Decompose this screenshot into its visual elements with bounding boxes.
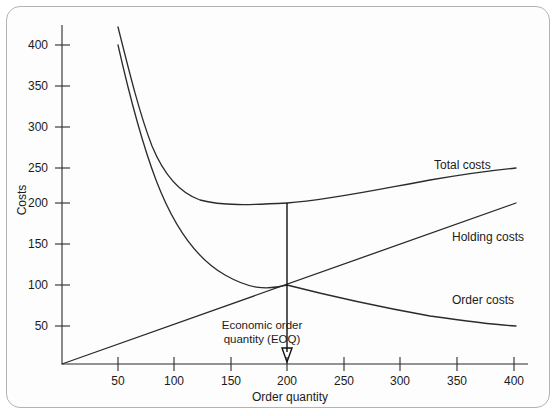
y-tick-label-300: 300 [28, 120, 48, 134]
x-tick-label-350: 350 [447, 374, 467, 388]
x-tick-label-50: 50 [111, 374, 125, 388]
total-costs-label: Total costs [434, 158, 491, 172]
y-tick-label-100: 100 [28, 278, 48, 292]
x-tick-label-250: 250 [334, 374, 354, 388]
y-axis-ticks: 400 350 300 250 200 150 100 50 [28, 38, 70, 333]
axes-group [62, 25, 528, 364]
x-axis-ticks: 50 100 150 200 250 300 350 400 [111, 357, 524, 388]
x-tick-label-200: 200 [277, 374, 297, 388]
x-tick-label-150: 150 [221, 374, 241, 388]
eoq-chart-figure: 400 350 300 250 200 150 100 50 50 100 15… [0, 0, 558, 416]
y-tick-label-200: 200 [28, 196, 48, 210]
y-tick-label-350: 350 [28, 79, 48, 93]
x-axis-title: Order quantity [252, 390, 328, 404]
order-costs-label: Order costs [452, 293, 514, 307]
x-tick-label-100: 100 [164, 374, 184, 388]
eoq-annotation-line-2: quantity (EOQ) [224, 333, 301, 345]
y-tick-label-150: 150 [28, 237, 48, 251]
x-tick-label-400: 400 [504, 374, 524, 388]
holding-costs-label: Holding costs [452, 230, 524, 244]
y-tick-label-50: 50 [35, 319, 49, 333]
eoq-chart-page: 400 350 300 250 200 150 100 50 50 100 15… [0, 0, 558, 416]
total-costs-curve [118, 27, 516, 205]
eoq-annotation-line-1: Economic order [222, 319, 303, 331]
y-axis-title: Costs [15, 185, 29, 216]
x-tick-label-300: 300 [390, 374, 410, 388]
y-tick-label-250: 250 [28, 161, 48, 175]
y-tick-label-400: 400 [28, 38, 48, 52]
